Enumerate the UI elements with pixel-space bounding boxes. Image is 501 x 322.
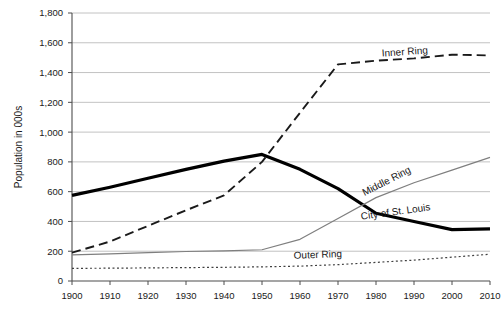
y-tick-label: 1,200 xyxy=(39,97,63,108)
y-tick-label: 1,000 xyxy=(39,127,63,138)
x-tick-label: 1900 xyxy=(61,290,82,301)
y-tick-label: 0 xyxy=(58,275,63,286)
y-tick-label: 600 xyxy=(47,186,63,197)
x-tick-label: 1970 xyxy=(327,290,348,301)
y-tick-label: 200 xyxy=(47,246,63,257)
x-tick-label: 1960 xyxy=(289,290,310,301)
x-tick-label: 1990 xyxy=(403,290,424,301)
x-tick-label: 2000 xyxy=(441,290,462,301)
y-tick-label: 1,400 xyxy=(39,67,63,78)
x-tick-label: 1910 xyxy=(99,290,120,301)
x-tick-label: 1940 xyxy=(213,290,234,301)
y-tick-label: 1,600 xyxy=(39,37,63,48)
series-label-outer-ring: Outer Ring xyxy=(294,248,343,261)
x-tick-label: 1930 xyxy=(175,290,196,301)
chart-figure: 02004006008001,0001,2001,4001,6001,800 1… xyxy=(0,0,501,322)
y-tick-label: 1,800 xyxy=(39,7,63,18)
y-tick-label: 400 xyxy=(47,216,63,227)
x-tick-label: 2010 xyxy=(479,290,500,301)
population-line-chart: 02004006008001,0001,2001,4001,6001,800 1… xyxy=(0,0,501,322)
y-axis-title: Population in 000s xyxy=(13,106,24,188)
x-tick-label: 1920 xyxy=(137,290,158,301)
y-tick-label: 800 xyxy=(47,156,63,167)
x-tick-label: 1980 xyxy=(365,290,386,301)
x-tick-label: 1950 xyxy=(251,290,272,301)
